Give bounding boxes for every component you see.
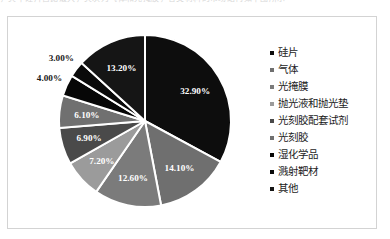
legend-marker-icon xyxy=(270,102,274,106)
pie-slice-value-label: 7.20% xyxy=(89,156,114,166)
pie-slice-value-label: 13.20% xyxy=(106,63,136,73)
legend-item-6[interactable]: 湿化学品 xyxy=(270,146,378,163)
legend-marker-icon xyxy=(270,170,274,174)
legend-item-1[interactable]: 气体 xyxy=(270,61,378,78)
pie-slice-value-label: 3.00% xyxy=(49,53,74,63)
pie-slice-value-label: 4.00% xyxy=(37,73,62,83)
legend-marker-icon xyxy=(270,119,274,123)
legend-item-3[interactable]: 抛光液和抛光垫 xyxy=(270,95,378,112)
figure-frame: 32.90%14.10%12.60%7.20%6.90%6.10%4.00%3.… xyxy=(7,16,377,229)
legend-marker-icon xyxy=(270,51,274,55)
legend-item-label: 抛光液和抛光垫 xyxy=(278,98,348,110)
legend-item-8[interactable]: 其他 xyxy=(270,180,378,197)
pie-slice-value-label: 6.10% xyxy=(74,110,99,120)
legend-item-5[interactable]: 光刻胶 xyxy=(270,129,378,146)
legend-item-label: 气体 xyxy=(278,64,298,76)
legend-marker-icon xyxy=(270,153,274,157)
pie-slice-value-label: 6.90% xyxy=(76,133,101,143)
cut-off-text-above-figure: ，其中硅片占比最大，其次为气体和光掩膜，各类材料的市场结构如下图所示 xyxy=(0,0,390,4)
legend-item-label: 光掩膜 xyxy=(278,81,308,93)
chart-legend: 硅片 气体 光掩膜 抛光液和抛光垫 光刻胶配套试剂 光刻胶 湿化学品 溅射靶材 xyxy=(270,44,378,197)
pie-chart-svg: 32.90%14.10%12.60%7.20%6.90%6.10%4.00%3.… xyxy=(24,17,264,228)
pie-slice-value-label: 14.10% xyxy=(165,163,195,173)
legend-marker-icon xyxy=(270,136,274,140)
legend-marker-icon xyxy=(270,187,274,191)
legend-item-label: 溅射靶材 xyxy=(278,166,318,178)
legend-marker-icon xyxy=(270,68,274,72)
legend-item-2[interactable]: 光掩膜 xyxy=(270,78,378,95)
legend-marker-icon xyxy=(270,85,274,89)
legend-item-label: 其他 xyxy=(278,183,298,195)
legend-item-label: 硅片 xyxy=(278,47,298,59)
legend-item-label: 光刻胶 xyxy=(278,132,308,144)
legend-item-label: 光刻胶配套试剂 xyxy=(278,115,348,127)
legend-item-4[interactable]: 光刻胶配套试剂 xyxy=(270,112,378,129)
legend-item-7[interactable]: 溅射靶材 xyxy=(270,163,378,180)
pie-slice-value-label: 32.90% xyxy=(180,86,210,96)
legend-item-label: 湿化学品 xyxy=(278,149,318,161)
pie-slice-value-label: 12.60% xyxy=(118,173,148,183)
legend-item-0[interactable]: 硅片 xyxy=(270,44,378,61)
